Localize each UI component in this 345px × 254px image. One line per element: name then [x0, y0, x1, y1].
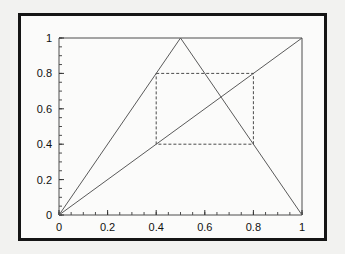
x-tick-label: 1	[299, 221, 305, 233]
x-tick-label: 0.8	[246, 221, 261, 233]
y-tick-label: 0.2	[37, 174, 52, 186]
y-axis-minor-ticks	[59, 38, 62, 215]
y-tick-label: 1	[46, 32, 52, 44]
x-tick-label: 0.4	[149, 221, 164, 233]
y-tick-label: 0.8	[37, 67, 52, 79]
x-tick-label: 0	[56, 221, 62, 233]
x-tick-label: 0.2	[100, 221, 115, 233]
tent-map-chart: 00.20.40.60.81 00.20.40.60.81	[21, 16, 324, 238]
x-axis-minor-ticks	[59, 212, 302, 215]
x-tick-label: 0.6	[197, 221, 212, 233]
y-tick-label: 0.6	[37, 103, 52, 115]
y-tick-label: 0	[46, 209, 52, 221]
y-tick-label: 0.4	[37, 138, 52, 150]
figure-frame: 00.20.40.60.81 00.20.40.60.81	[18, 13, 327, 241]
